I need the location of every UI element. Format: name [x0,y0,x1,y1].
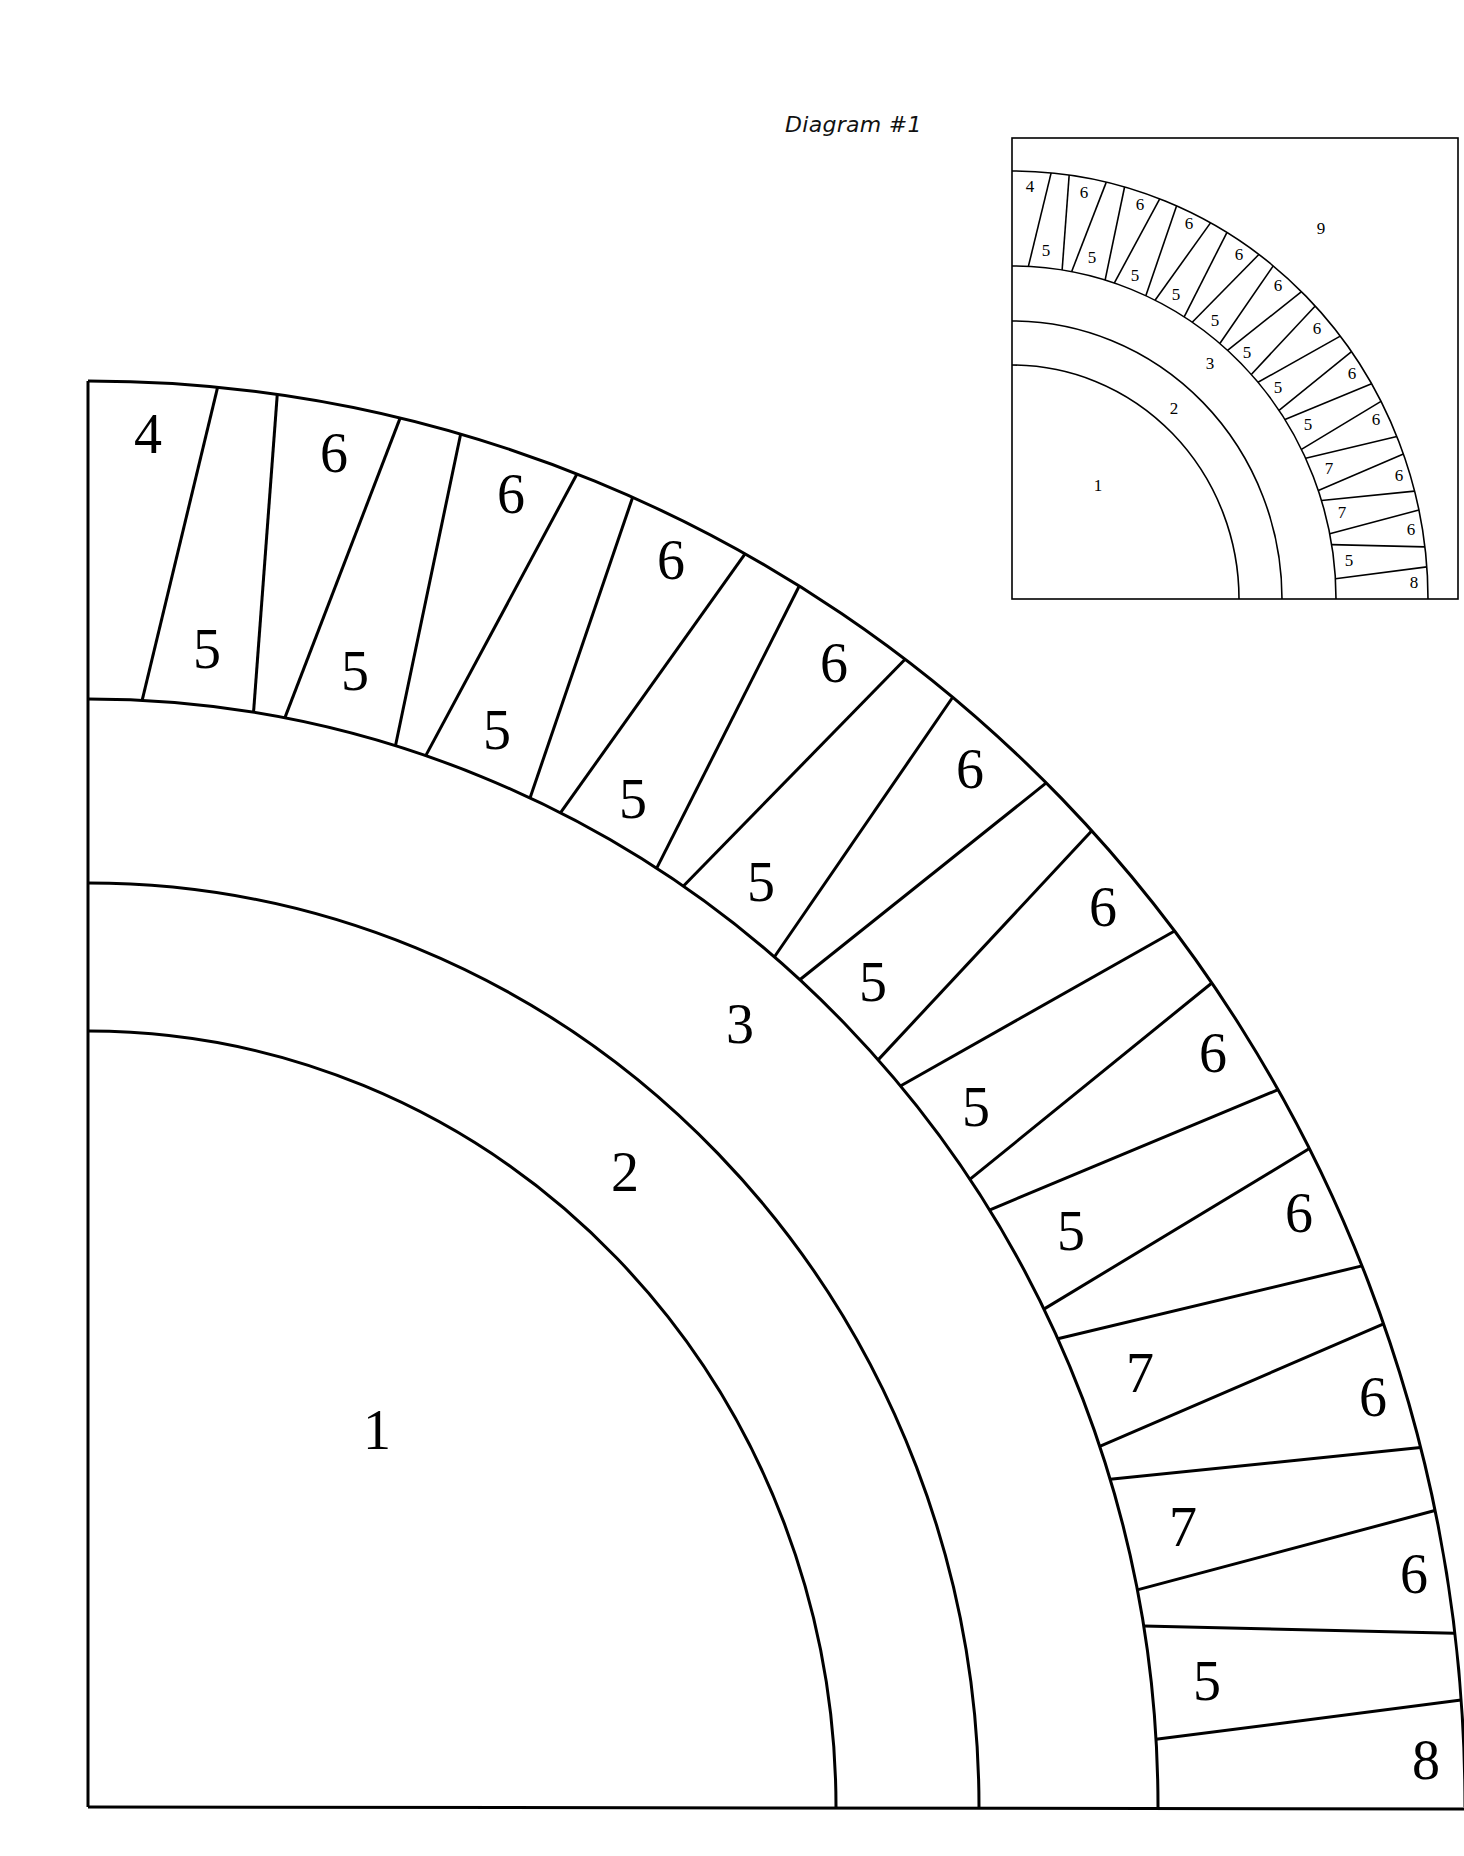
piece-number-label: 7 [1126,1342,1154,1404]
piece-number-label: 7 [1169,1496,1197,1558]
piece-number-label: 9 [1317,219,1326,238]
piece-number-label: 4 [1026,177,1035,196]
piece-number-label: 5 [619,768,647,830]
piece-number-label: 6 [1348,364,1357,383]
spoke-line [657,586,800,868]
piece-number-label: 5 [193,618,221,680]
piece-number-label: 5 [1193,1650,1221,1712]
piece-number-label: 3 [1206,354,1215,373]
spoke-line [800,783,1046,980]
piece-number-label: 6 [497,463,525,525]
arc2-arc [1012,321,1282,599]
piece-number-label: 5 [1172,285,1181,304]
spoke-line [878,831,1092,1060]
piece-number-label: 5 [859,951,887,1013]
piece-number-label: 7 [1325,459,1334,478]
piece-number-label: 6 [1407,520,1416,539]
piece-number-label: 3 [726,993,754,1055]
piece-number-label: 1 [1094,476,1103,495]
spoke-line [1184,233,1227,317]
piece-number-label: 6 [1274,276,1283,295]
piece-number-label: 8 [1410,573,1419,592]
spoke-line [1258,336,1340,382]
piece-number-label: 6 [1400,1543,1428,1605]
spoke-line [1332,545,1425,547]
quilt-block-diagram: 12346666666666555555557758 1234966666666… [0,0,1464,1856]
piece-number-label: 6 [1285,1182,1313,1244]
arc1-arc [1012,365,1239,599]
piece-number-label: 6 [1199,1022,1227,1084]
piece-number-label: 6 [1313,319,1322,338]
ring-inner-arc [88,699,1158,1807]
spoke-line [1146,206,1177,296]
piece-number-label: 5 [1211,311,1220,330]
piece-number-label: 6 [1080,183,1089,202]
spoke-line [1279,352,1351,411]
spoke-line [395,434,460,746]
piece-number-label: 5 [1304,415,1313,434]
piece-number-label: 4 [134,403,162,465]
spoke-line [683,659,905,886]
piece-number-label: 6 [956,738,984,800]
spoke-line [1144,1626,1455,1633]
piece-number-label: 5 [341,640,369,702]
main-quarter-circle-pattern: 12346666666666555555557758 [88,381,1464,1809]
spoke-line [1306,437,1397,459]
piece-number-label: 2 [1170,399,1179,418]
piece-number-label: 5 [1131,266,1140,285]
inset-frame [1012,138,1458,599]
piece-number-label: 5 [962,1076,990,1138]
piece-number-label: 2 [611,1141,639,1203]
spoke-line [1251,306,1315,374]
piece-number-label: 6 [1359,1366,1387,1428]
piece-number-label: 7 [1338,503,1347,522]
piece-number-label: 5 [483,699,511,761]
piece-number-label: 5 [1274,378,1283,397]
spoke-line [1155,223,1210,300]
piece-number-label: 6 [1235,245,1244,264]
piece-number-label: 6 [820,632,848,694]
spoke-line [1322,491,1415,500]
ring-inner-arc [1012,266,1336,599]
spoke-line [254,395,278,713]
spoke-line [1228,292,1302,351]
arc2-arc [88,883,979,1807]
piece-number-label: 6 [1395,466,1404,485]
piece-number-label: 5 [1088,248,1097,267]
piece-number-label: 6 [657,529,685,591]
piece-number-label: 5 [1243,343,1252,362]
arc1-arc [88,1031,836,1807]
piece-number-label: 6 [1185,214,1194,233]
spoke-line [1058,1266,1362,1339]
piece-number-label: 1 [363,1399,391,1461]
spoke-line [970,983,1212,1179]
spoke-line [900,931,1174,1086]
spoke-line [1110,1448,1420,1480]
piece-number-label: 5 [1057,1200,1085,1262]
spoke-line [1062,175,1069,270]
ring-outer-arc [1012,171,1428,599]
spoke-line [1192,255,1259,323]
piece-number-label: 6 [1372,410,1381,429]
piece-number-label: 5 [1345,551,1354,570]
spoke-line [530,497,633,798]
bottom-edge [88,1807,1464,1809]
spoke-line [1105,187,1124,280]
inset-diagram-1: 123496666666666555555557758 [1012,138,1458,599]
ring-outer-arc [88,381,1464,1807]
piece-number-label: 6 [1089,876,1117,938]
piece-number-label: 5 [1042,241,1051,260]
spoke-line [1220,266,1273,344]
piece-number-label: 6 [320,422,348,484]
spoke-line [560,554,745,813]
piece-number-label: 8 [1412,1729,1440,1791]
piece-number-label: 5 [747,851,775,913]
piece-number-label: 6 [1136,195,1145,214]
spoke-line [774,697,952,957]
